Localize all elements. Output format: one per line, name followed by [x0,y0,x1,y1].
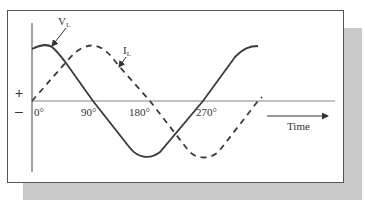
tick-label-90: 90° [81,107,96,118]
tick-label-270: 270° [196,107,217,118]
tick-label-0: 0° [34,107,44,118]
time-axis-label: Time [287,121,310,132]
tick-label-180: 180° [129,107,150,118]
waveform-plot [0,0,365,206]
positive-sign: + [15,86,23,100]
current-pointer-arrow [119,57,126,67]
voltage-label: VL [58,16,70,27]
current-label: IL [123,45,131,56]
voltage-pointer-arrow [52,28,66,46]
negative-sign: – [15,104,23,118]
